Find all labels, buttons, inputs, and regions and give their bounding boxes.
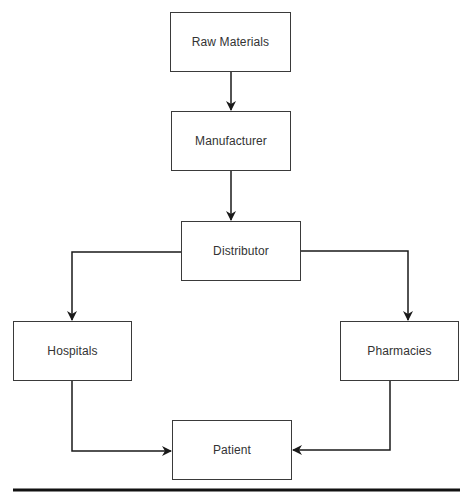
node-label: Distributor: [213, 244, 269, 258]
node-manufacturer[interactable]: Manufacturer: [171, 111, 291, 171]
edge-distributor-to-pharmacies: [301, 251, 408, 320]
node-hospitals[interactable]: Hospitals: [13, 321, 132, 381]
node-label: Pharmacies: [367, 344, 431, 358]
flowchart-canvas: Raw Materials Manufacturer Distributor H…: [0, 0, 470, 497]
node-pharmacies[interactable]: Pharmacies: [340, 321, 459, 381]
edge-pharmacies-to-patient: [293, 381, 390, 450]
node-label: Manufacturer: [195, 134, 267, 148]
node-label: Raw Materials: [192, 35, 269, 49]
node-label: Hospitals: [47, 344, 97, 358]
edge-distributor-to-hospitals: [72, 252, 181, 320]
edge-hospitals-to-patient: [72, 381, 171, 451]
node-raw-materials[interactable]: Raw Materials: [170, 12, 291, 72]
node-label: Patient: [213, 443, 251, 457]
node-patient[interactable]: Patient: [172, 420, 292, 480]
node-distributor[interactable]: Distributor: [181, 221, 301, 281]
